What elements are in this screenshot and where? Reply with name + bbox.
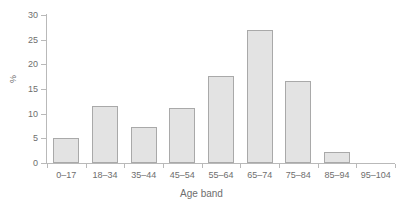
y-axis-tick-label: 10	[0, 110, 38, 119]
y-axis-tick-label: 15	[0, 85, 38, 94]
x-axis-tick	[124, 164, 125, 168]
bar-65-74	[247, 30, 273, 163]
y-axis-tick-label: 30	[0, 11, 38, 20]
bar-0-17	[53, 138, 79, 163]
x-axis-title: Age band	[0, 188, 403, 199]
x-axis-tick	[202, 164, 203, 168]
x-axis-tick-label: 55–64	[208, 170, 233, 180]
x-axis-tick	[86, 164, 87, 168]
bar-18-34	[92, 106, 118, 163]
x-axis-tick	[47, 164, 48, 168]
x-axis-tick-label: 18–34	[92, 170, 117, 180]
y-axis-tick	[41, 114, 46, 115]
y-axis-tick	[41, 163, 46, 164]
x-axis-tick-label: 45–54	[170, 170, 195, 180]
y-axis-tick-label: 5	[0, 134, 38, 143]
x-axis-tick	[318, 164, 319, 168]
y-axis-tick-label: 20	[0, 60, 38, 69]
y-axis-tick	[41, 64, 46, 65]
y-axis-tick-label: 25	[0, 36, 38, 45]
x-axis-tick-label: 95–104	[361, 170, 391, 180]
x-axis-tick	[240, 164, 241, 168]
x-axis-tick-label: 0–17	[56, 170, 76, 180]
plot-area	[47, 15, 395, 163]
bar-35-44	[131, 127, 157, 163]
y-axis-title: %	[9, 75, 18, 83]
bar-55-64	[208, 76, 234, 163]
bar-chart-figure: 051015202530 0–1718–3435–4445–5455–6465–…	[0, 0, 403, 211]
bar-45-54	[169, 108, 195, 163]
y-axis-tick-label: 0	[0, 159, 38, 168]
x-axis-tick-label: 65–74	[247, 170, 272, 180]
x-axis-tick	[356, 164, 357, 168]
x-axis-tick-label: 75–84	[286, 170, 311, 180]
bar-85-94	[324, 152, 350, 163]
x-axis-tick	[395, 164, 396, 168]
y-axis-tick	[41, 138, 46, 139]
x-axis-line	[46, 163, 395, 164]
x-axis-tick	[279, 164, 280, 168]
y-axis-tick	[41, 40, 46, 41]
bar-75-84	[285, 81, 311, 163]
y-axis-tick	[41, 15, 46, 16]
x-axis-tick	[163, 164, 164, 168]
y-axis-tick	[41, 89, 46, 90]
x-axis-tick-label: 85–94	[324, 170, 349, 180]
x-axis-tick-label: 35–44	[131, 170, 156, 180]
